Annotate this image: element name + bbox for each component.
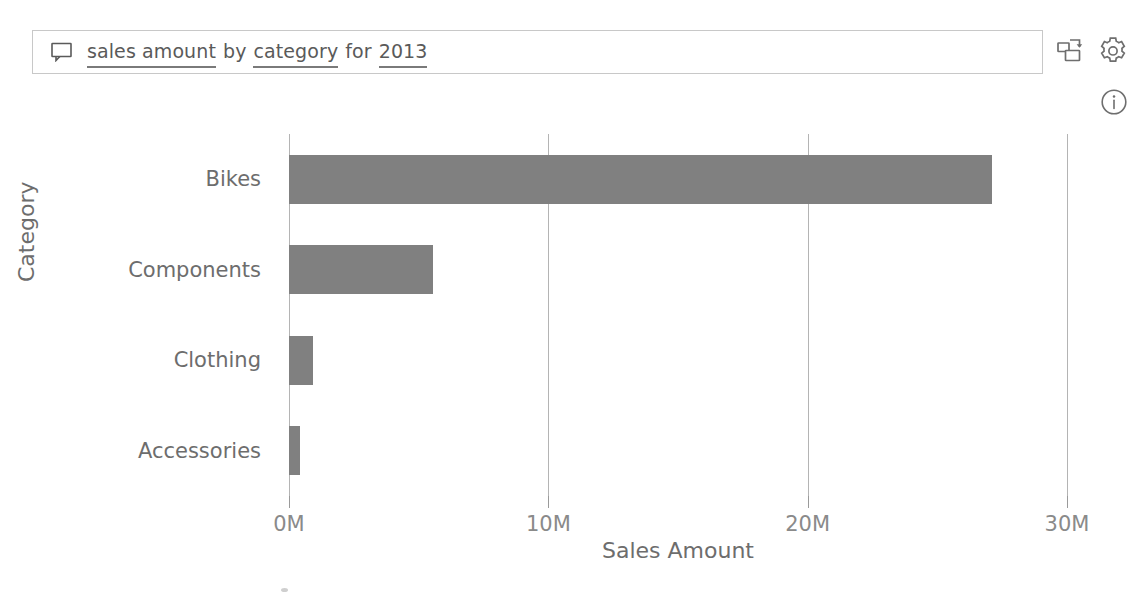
qna-token-by[interactable]: by [223,42,247,61]
x-tick [548,496,549,508]
x-tick-label: 30M [1045,512,1090,536]
bar-clothing[interactable] [289,336,313,385]
speech-bubble-icon [51,42,73,62]
gridline-x [1067,134,1068,496]
qna-token-dimension[interactable]: category [253,42,338,61]
qna-token-for[interactable]: for [345,42,371,61]
bar-chart[interactable]: Category Bikes Components Clothing Acces… [0,120,1146,580]
bar-accessories[interactable] [289,426,300,475]
qna-search-box[interactable]: sales amount by category for 2013 [32,30,1043,74]
gear-icon[interactable] [1098,36,1128,66]
y-tick-label: Components [0,256,275,284]
plot-area: 0M 10M 20M 30M [289,134,1067,496]
bar-components[interactable] [289,245,433,294]
x-tick [1067,496,1068,508]
qna-token-year[interactable]: 2013 [379,42,428,61]
qna-query-text[interactable]: sales amount by category for 2013 [87,42,427,62]
x-tick-label: 0M [273,512,304,536]
x-tick [289,496,290,508]
x-tick-label: 10M [526,512,571,536]
x-tick [808,496,809,508]
pin-visual-icon[interactable] [1057,38,1085,64]
qna-token-measure[interactable]: sales amount [87,42,216,61]
scan-artifact [281,588,288,592]
x-tick-label: 20M [785,512,830,536]
bar-bikes[interactable] [289,155,992,204]
x-axis-title: Sales Amount [289,538,1067,563]
y-tick-label: Accessories [0,437,275,465]
y-tick-label: Bikes [0,165,275,193]
y-tick-label: Clothing [0,346,275,374]
y-axis-tick-labels: Bikes Components Clothing Accessories [0,134,275,496]
info-icon[interactable] [1100,88,1128,116]
